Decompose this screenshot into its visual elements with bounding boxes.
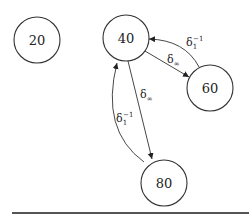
- bottom-divider: [12, 212, 249, 214]
- edge-label-60-40: δ1−1: [186, 35, 203, 51]
- svg-text:80: 80: [156, 176, 173, 191]
- node-20: 20: [14, 17, 60, 63]
- node-60: 60: [187, 65, 233, 111]
- edge-label-40-60: δ∞: [167, 53, 180, 68]
- node-80: 80: [141, 160, 187, 206]
- svg-text:40: 40: [118, 31, 135, 46]
- state-diagram: δ∞ δ1−1 δ∞ δ1−1 20 40 60 80: [0, 0, 249, 217]
- edge-label-40-80: δ∞: [140, 88, 153, 103]
- svg-text:20: 20: [29, 33, 46, 48]
- edge-40-to-80: [128, 61, 152, 159]
- svg-text:60: 60: [202, 81, 219, 96]
- node-40: 40: [103, 15, 149, 61]
- edge-label-80-40: δ1−1: [116, 111, 133, 127]
